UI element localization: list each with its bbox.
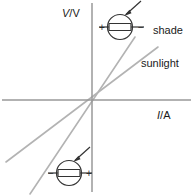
ldr-circle-top — [108, 15, 133, 40]
polarity-sign-bottom-left: − — [48, 169, 54, 179]
ldr-symbol-top-right — [99, 1, 144, 40]
ldr-vi-characteristic-figure: V/V I/A shade sunlight + − − + — [0, 0, 194, 196]
polarity-sign-bottom-right: + — [86, 169, 92, 179]
curves-group — [6, 37, 158, 194]
polarity-sign-top-left: + — [99, 23, 105, 33]
y-axis-label: V/V — [62, 8, 80, 19]
ldr-symbol-bottom-left — [48, 147, 92, 186]
curve-label-shade: shade — [153, 25, 183, 36]
curve-label-sunlight: sunlight — [141, 58, 179, 69]
ldr-resistor-body-bottom — [58, 170, 80, 177]
x-axis-unit: A — [163, 109, 170, 121]
ldr-resistor-body-top — [109, 24, 131, 31]
x-axis-label: I/A — [157, 110, 170, 121]
polarity-sign-top-right: − — [138, 23, 144, 33]
ldr-circle-bottom — [57, 161, 82, 186]
y-axis-unit: V — [72, 7, 79, 19]
curve-shade — [30, 37, 135, 194]
curve-sunlight — [6, 47, 158, 162]
